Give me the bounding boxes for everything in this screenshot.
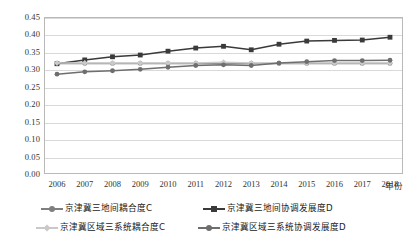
data-point-marker bbox=[388, 35, 393, 40]
data-point-marker bbox=[332, 58, 337, 63]
legend-item-0[interactable]: 京津冀三地间耦合度C bbox=[41, 204, 152, 213]
data-point-marker bbox=[193, 46, 198, 51]
chart-legend: 京津冀三地间耦合度C 京津冀三地间协调发展度D 京津冀区域三系统耦合度C 京津冀… bbox=[0, 203, 413, 245]
legend-label-1: 京津冀三地间协调发展度D bbox=[227, 204, 333, 213]
legend-marker-swatch bbox=[49, 206, 55, 212]
legend-item-1[interactable]: 京津冀三地间协调发展度D bbox=[203, 204, 333, 213]
data-point-marker bbox=[304, 39, 309, 44]
legend-label-2: 京津冀区域三系统耦合度C bbox=[60, 223, 165, 232]
legend-label-0: 京津冀三地间耦合度C bbox=[65, 204, 152, 213]
legend-marker-swatch bbox=[211, 206, 217, 212]
data-point-marker bbox=[137, 60, 143, 66]
data-point-marker bbox=[360, 38, 365, 43]
data-point-marker bbox=[110, 54, 115, 59]
legend-key-icon-3 bbox=[198, 223, 220, 232]
legend-item-3[interactable]: 京津冀区域三系统协调发展度D bbox=[198, 223, 346, 232]
data-point-marker bbox=[277, 61, 282, 66]
data-point-marker bbox=[138, 53, 143, 58]
data-point-marker bbox=[388, 58, 393, 63]
data-point-marker bbox=[249, 63, 254, 68]
data-point-marker bbox=[166, 49, 171, 54]
chart-container: 0.000.050.100.150.200.250.300.350.400.45… bbox=[0, 0, 413, 248]
data-point-marker bbox=[82, 69, 87, 74]
legend-label-3: 京津冀区域三系统协调发展度D bbox=[222, 223, 346, 232]
legend-key-icon-2 bbox=[36, 223, 58, 232]
legend-key-icon-0 bbox=[41, 204, 63, 213]
data-point-marker bbox=[138, 67, 143, 72]
legend-marker-swatch bbox=[206, 225, 212, 231]
legend-marker-swatch bbox=[44, 224, 51, 231]
legend-key-icon-1 bbox=[203, 204, 225, 213]
data-point-marker bbox=[110, 68, 115, 73]
data-point-marker bbox=[332, 38, 337, 43]
legend-item-2[interactable]: 京津冀区域三系统耦合度C bbox=[36, 223, 165, 232]
data-point-marker bbox=[221, 62, 226, 67]
data-point-marker bbox=[221, 44, 226, 49]
data-point-marker bbox=[304, 59, 309, 64]
data-point-marker bbox=[360, 58, 365, 63]
data-point-marker bbox=[110, 60, 116, 66]
data-point-marker bbox=[193, 63, 198, 68]
data-point-marker bbox=[166, 65, 171, 70]
data-point-marker bbox=[249, 47, 254, 52]
data-point-marker bbox=[277, 42, 282, 47]
data-point-marker bbox=[55, 72, 60, 77]
